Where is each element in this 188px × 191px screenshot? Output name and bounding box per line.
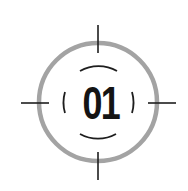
inner-arc-bottom bbox=[80, 134, 116, 139]
target-number-label: 01 bbox=[82, 82, 113, 124]
inner-arc-left bbox=[63, 92, 65, 113]
inner-arc-top bbox=[80, 66, 117, 71]
inner-arc-right bbox=[132, 92, 134, 113]
crosshair-target-icon: 01 bbox=[0, 0, 188, 191]
